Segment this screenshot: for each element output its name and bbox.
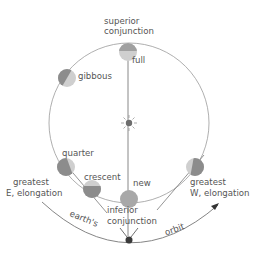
label-inferior: inferior xyxy=(107,205,138,215)
label-gibbous: gibbous xyxy=(78,71,112,81)
label-conjunction-top: conjunction xyxy=(104,26,154,36)
label-superior: superior xyxy=(104,16,140,26)
planet-greatest-west-elongation xyxy=(186,156,206,178)
label-e-elongation: E, elongation xyxy=(6,188,62,198)
label-crescent: crescent xyxy=(84,172,121,182)
label-w-elongation: W, elongation xyxy=(190,188,250,198)
label-orbit: orbit xyxy=(163,221,186,237)
sun-icon xyxy=(121,115,137,131)
label-quarter: quarter xyxy=(62,148,94,158)
orbit-diagram: superior conjunction full gibbous quarte… xyxy=(0,0,259,254)
earth-dot-icon xyxy=(120,228,138,244)
label-full: full xyxy=(132,55,145,65)
label-e-greatest: greatest xyxy=(13,177,49,187)
label-w-greatest: greatest xyxy=(190,177,226,187)
orbit-arrow-icon xyxy=(211,203,219,210)
label-new: new xyxy=(133,178,151,188)
label-conjunction-bottom: conjunction xyxy=(107,216,157,226)
